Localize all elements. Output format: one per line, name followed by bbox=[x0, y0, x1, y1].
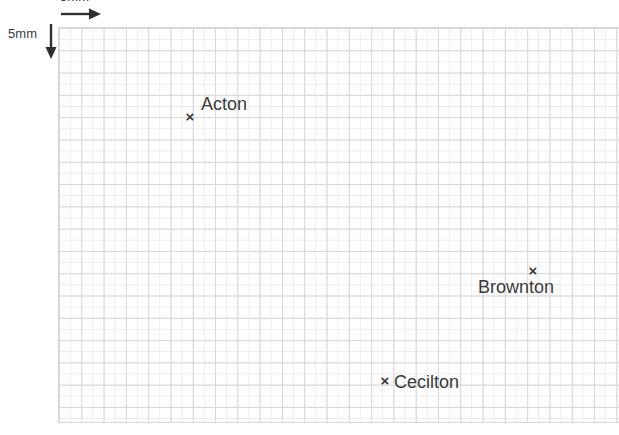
horizontal-scale-label: 5mm bbox=[60, 0, 89, 4]
grid-paper bbox=[58, 27, 619, 423]
arrow-down-icon bbox=[44, 24, 58, 64]
map-point-label-cecilton: Cecilton bbox=[394, 373, 459, 391]
cross-marker-icon: × bbox=[186, 109, 195, 124]
map-page: 5mm 5mm × Acton × Brownton × Cecilton bbox=[0, 0, 619, 435]
horizontal-scale-annotation: 5mm bbox=[60, 0, 116, 27]
map-point-label-acton: Acton bbox=[201, 95, 247, 113]
map-point-label-brownton: Brownton bbox=[478, 278, 554, 296]
vertical-scale-annotation: 5mm bbox=[8, 26, 56, 66]
cross-marker-icon: × bbox=[381, 373, 390, 388]
arrow-right-icon bbox=[61, 7, 103, 25]
cross-marker-icon: × bbox=[529, 263, 538, 278]
vertical-scale-label: 5mm bbox=[8, 26, 37, 41]
